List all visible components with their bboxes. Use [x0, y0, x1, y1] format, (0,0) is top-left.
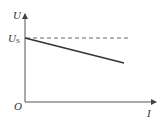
- characteristic-line: [25, 38, 124, 63]
- x-axis-label: I: [146, 107, 152, 119]
- origin-label: O: [14, 100, 22, 112]
- y-axis-label: U: [13, 9, 22, 21]
- us-label: US: [8, 32, 20, 45]
- u-i-diagram: U I O US: [0, 0, 166, 122]
